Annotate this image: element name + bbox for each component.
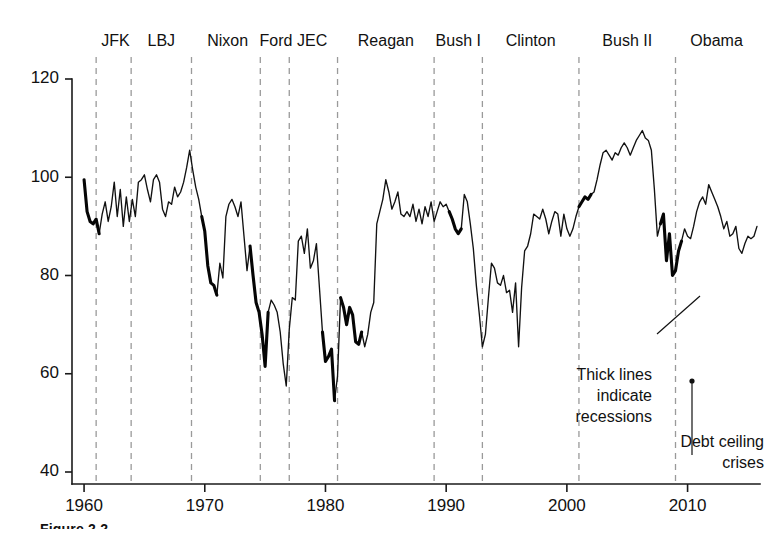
sentiment-line-chart: JFKLBJNixonFordJECReaganBush IClintonBus…: [0, 0, 782, 543]
thick-lines-annotation-line-1: Thick lines: [576, 366, 652, 383]
y-tick-label-40: 40: [40, 461, 59, 480]
y-tick-label-100: 100: [31, 167, 59, 186]
thick-lines-annotation-line-3: recessions: [576, 408, 652, 425]
y-tick-label-80: 80: [40, 265, 59, 284]
president-label-obama: Obama: [690, 32, 743, 49]
president-label-ford: Ford: [260, 32, 293, 49]
president-label-bush-i: Bush I: [436, 32, 481, 49]
x-tick-label-1960: 1960: [65, 496, 103, 515]
y-tick-label-60: 60: [40, 363, 59, 382]
president-label-clinton: Clinton: [506, 32, 556, 49]
x-tick-label-1990: 1990: [427, 496, 465, 515]
x-tick-label-2010: 2010: [669, 496, 707, 515]
x-tick-label-1970: 1970: [186, 496, 224, 515]
chart-background: [0, 0, 782, 543]
president-label-jec: JEC: [297, 32, 327, 49]
president-label-reagan: Reagan: [358, 32, 414, 49]
y-tick-label-120: 120: [31, 68, 59, 87]
president-label-jfk: JFK: [101, 32, 130, 49]
x-tick-label-1980: 1980: [307, 496, 345, 515]
president-label-lbj: LBJ: [148, 32, 176, 49]
thick-lines-annotation-line-2: indicate: [597, 387, 652, 404]
debt-ceiling-annotation-line-2: crises: [722, 454, 764, 471]
figure-container: JFKLBJNixonFordJECReaganBush IClintonBus…: [0, 0, 782, 543]
debt-ceiling-annotation-line-1: Debt ceiling: [680, 433, 764, 450]
president-label-bush-ii: Bush II: [602, 32, 652, 49]
x-tick-label-2000: 2000: [548, 496, 586, 515]
debt-ceiling-marker-dot: [689, 378, 694, 383]
president-label-nixon: Nixon: [207, 32, 248, 49]
